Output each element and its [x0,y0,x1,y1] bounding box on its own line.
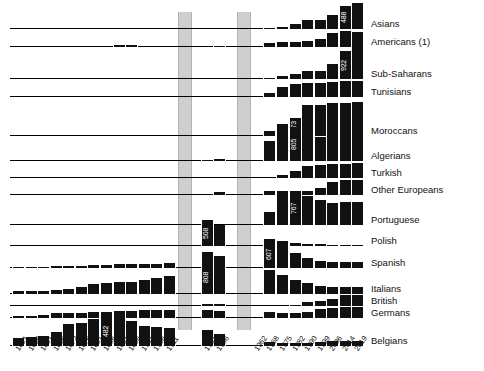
bar[interactable] [75,287,88,294]
bar[interactable] [263,141,276,161]
bar[interactable] [314,286,327,294]
chart-root: 488AsiansAmericans (1)922Sub-SaharansTun… [0,0,484,371]
bar[interactable] [289,84,302,97]
series-row: 805 [0,126,484,161]
series-label: Tunisians [371,87,411,97]
bar[interactable] [314,71,327,79]
bar[interactable] [276,87,289,97]
bar[interactable] [351,295,364,306]
bar[interactable] [276,131,289,161]
bar[interactable] [326,287,339,294]
bar[interactable] [289,127,302,161]
series-label: British [371,296,397,306]
bar[interactable] [326,82,339,97]
bar[interactable] [351,163,364,178]
bar[interactable] [213,159,226,161]
bar[interactable] [314,83,327,97]
bar[interactable] [100,283,113,294]
bar[interactable] [163,276,176,294]
bar[interactable] [301,83,314,97]
x-axis-tick-labels: 1851185618611866187218761881188618911896… [0,0,484,60]
series-row [0,162,484,178]
bar[interactable] [125,282,138,294]
bar[interactable] [301,283,314,294]
bar[interactable] [339,295,352,306]
series-label: Sub-Saharans [371,69,432,79]
series-label: Italians [371,284,401,294]
bar[interactable] [351,132,364,161]
bar[interactable] [326,164,339,178]
bar[interactable] [201,260,214,294]
bar[interactable] [301,135,314,161]
series-row [0,80,484,97]
bar[interactable] [289,171,302,179]
bar[interactable] [339,134,352,161]
bar[interactable] [351,81,364,97]
bar[interactable] [339,81,352,97]
bar[interactable] [150,278,163,294]
bar[interactable] [314,137,327,162]
bar[interactable] [326,136,339,161]
series-label: Algerians [371,151,411,161]
series-row [0,294,484,306]
series-label: Turkish [371,168,402,178]
bar[interactable] [276,275,289,294]
bar[interactable] [314,165,327,178]
bar[interactable] [276,175,289,178]
bar[interactable] [289,74,302,79]
bar[interactable] [326,64,339,79]
bar[interactable] [263,78,276,80]
series-row: 808 [0,259,484,294]
bar[interactable] [87,284,100,294]
bar[interactable] [263,270,276,294]
bar[interactable] [289,280,302,294]
bar[interactable] [276,76,289,79]
bar[interactable] [326,299,339,306]
bar[interactable] [351,287,364,294]
bar[interactable] [138,280,151,294]
bar[interactable] [301,166,314,179]
bar[interactable] [113,282,126,294]
bar[interactable] [213,264,226,294]
bar[interactable] [263,93,276,97]
bar[interactable] [201,160,214,162]
series-label: Belgians [371,336,407,346]
bar[interactable] [301,71,314,79]
bar[interactable] [339,287,352,294]
bar[interactable] [339,164,352,178]
